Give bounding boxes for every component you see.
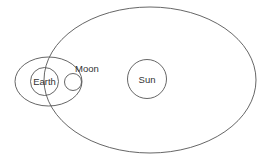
moon-label: Moon (75, 63, 99, 74)
orbit-diagram: Earth Moon Sun (0, 0, 262, 160)
moon-circle (65, 74, 82, 91)
sun-label: Sun (139, 74, 156, 85)
earth-label: Earth (33, 76, 56, 87)
sun-body: Sun (128, 60, 167, 99)
